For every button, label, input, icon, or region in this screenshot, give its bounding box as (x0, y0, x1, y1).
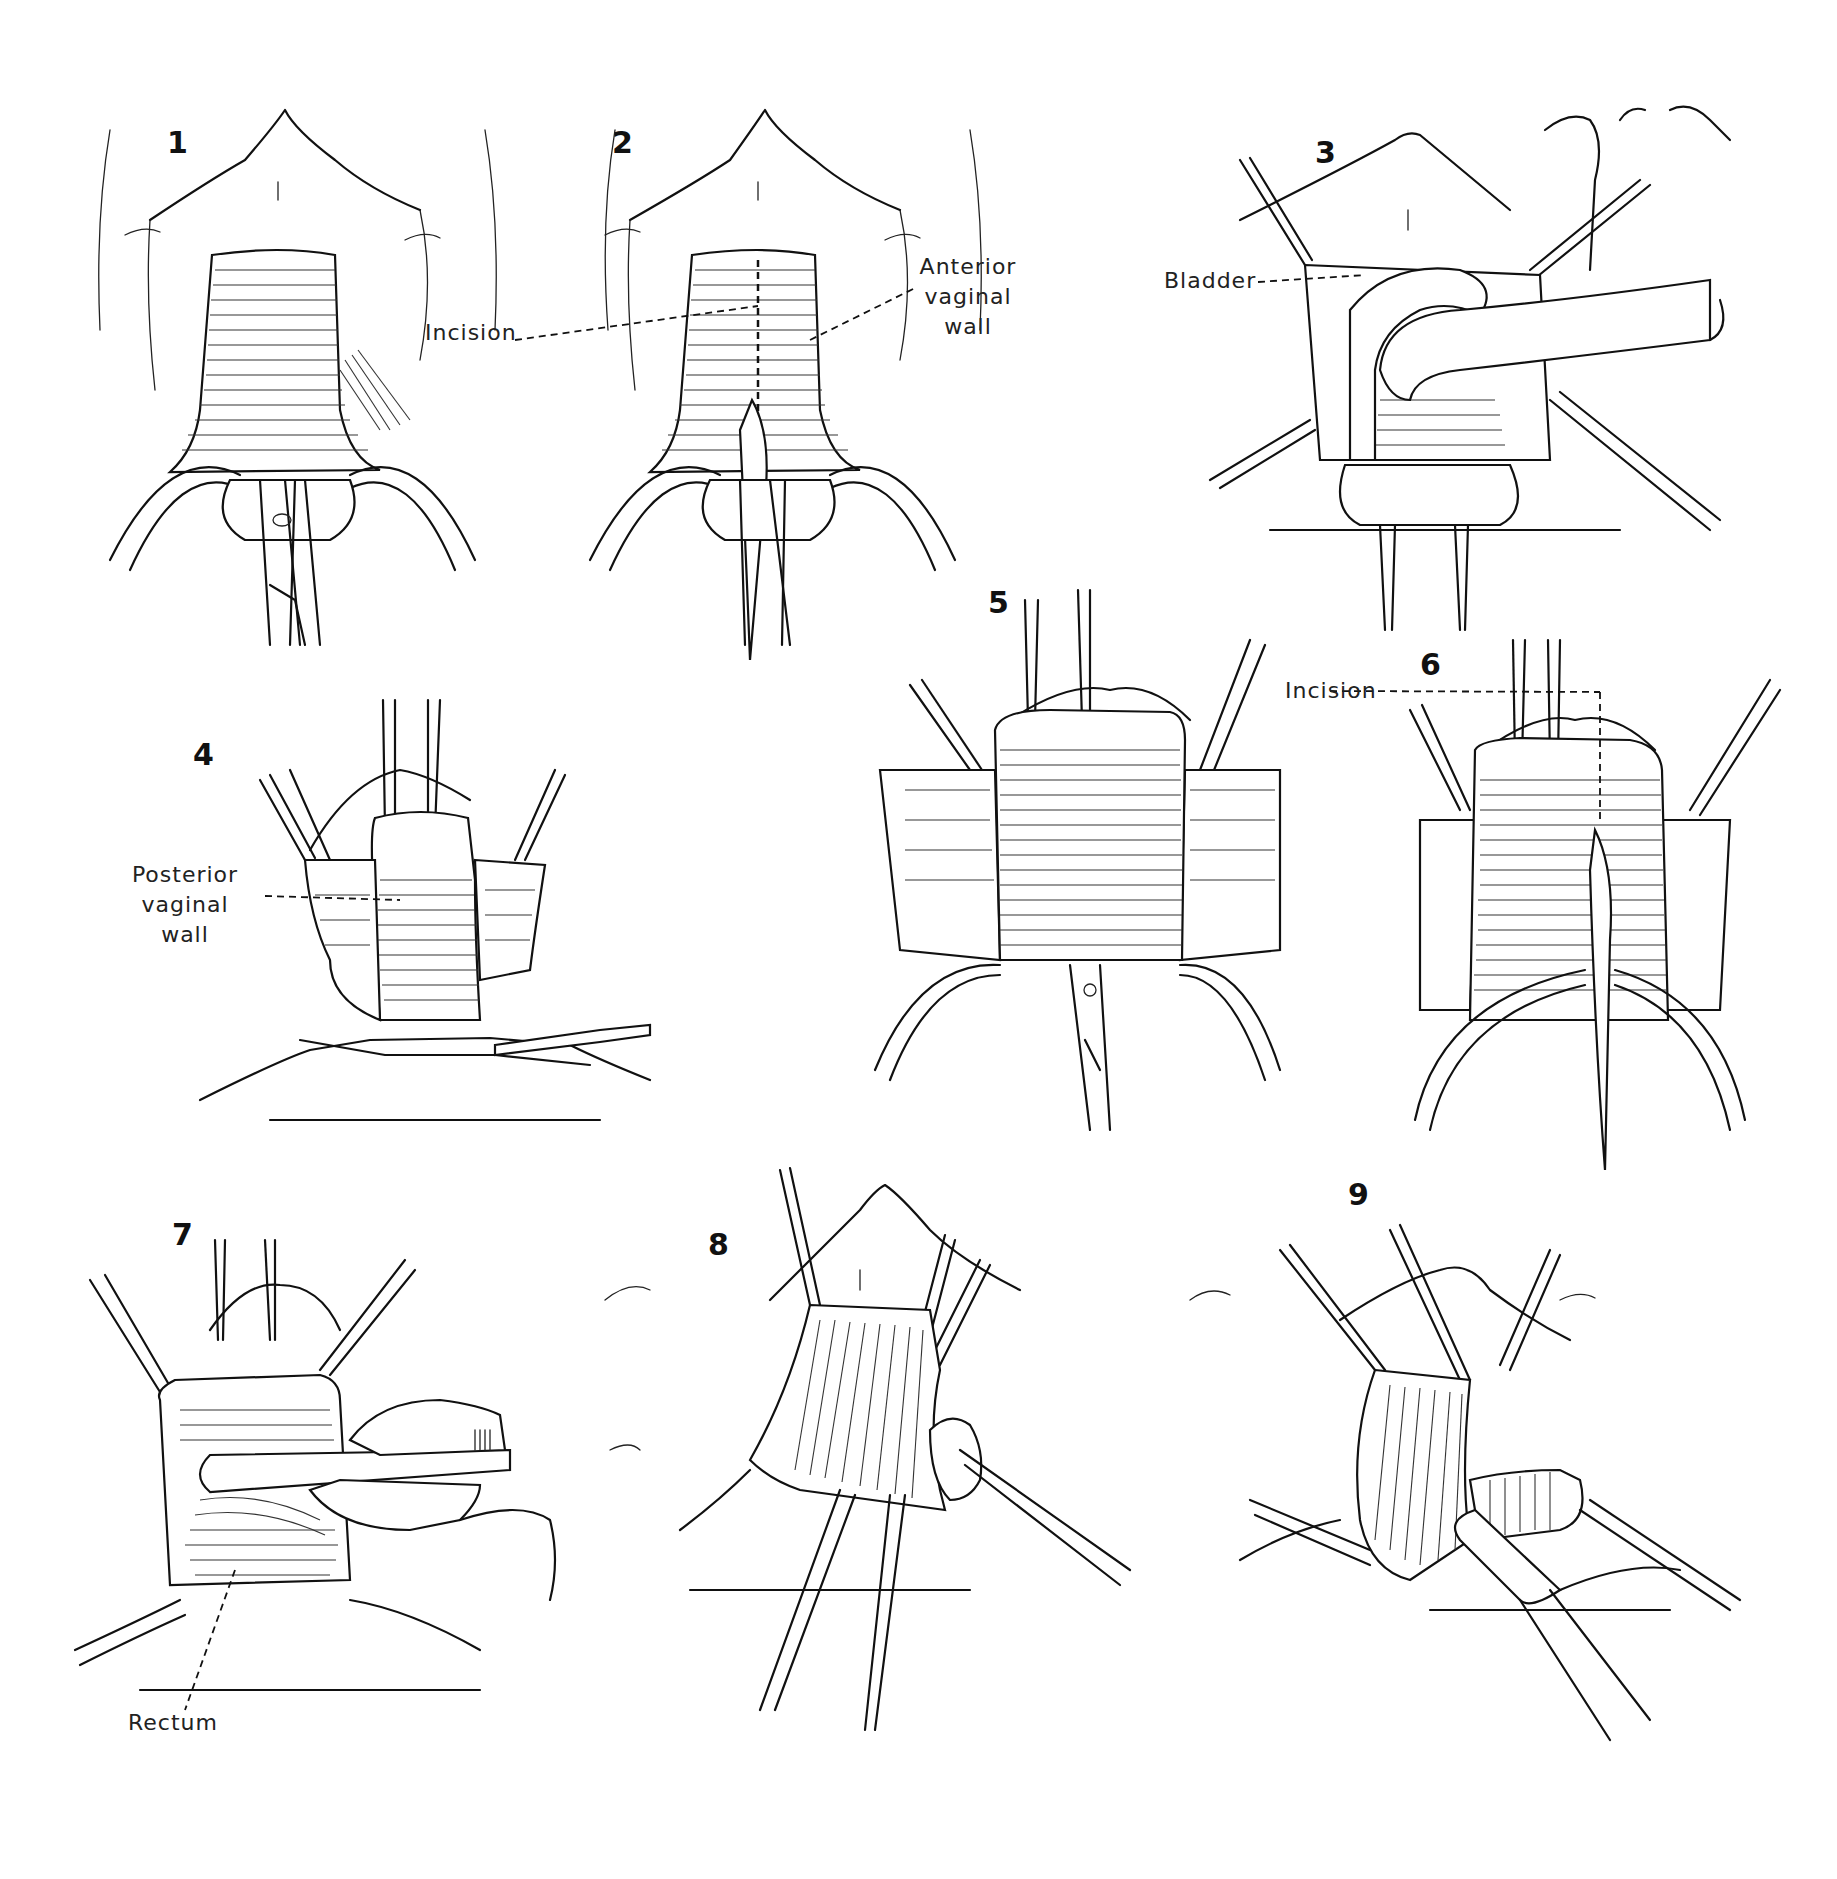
label-incision: Incision (425, 318, 517, 348)
panel-5-drawing (900, 570, 1280, 1130)
label-posterior-vaginal-wall: Posterior vaginal wall (110, 860, 260, 950)
panel-6: 6 Incision (1400, 640, 1800, 1200)
panel-7-drawing (80, 1200, 580, 1740)
panel-4: 4 Posterior vaginal wall (130, 680, 710, 1140)
panel-9-drawing (1230, 1180, 1810, 1780)
label-incision: Incision (1285, 676, 1377, 706)
panel-6-drawing (1400, 640, 1800, 1200)
label-anterior-vaginal-wall: Anterior vaginal wall (898, 252, 1038, 342)
panel-3: 3 Bladder (1150, 100, 1770, 640)
label-bladder: Bladder (1164, 266, 1256, 296)
panel-8-drawing (690, 1150, 1150, 1750)
panel-5: 5 (900, 570, 1280, 1130)
panel-8: 8 (690, 1150, 1150, 1750)
panel-1: 1 (90, 100, 510, 660)
panel-9: 9 (1230, 1180, 1810, 1780)
surgical-illustration-plate: 1 (0, 0, 1837, 1879)
panel-7: 7 Rectum (80, 1200, 580, 1740)
panel-1-drawing (90, 100, 510, 660)
label-rectum: Rectum (128, 1708, 218, 1738)
panel-3-drawing (1150, 100, 1770, 640)
